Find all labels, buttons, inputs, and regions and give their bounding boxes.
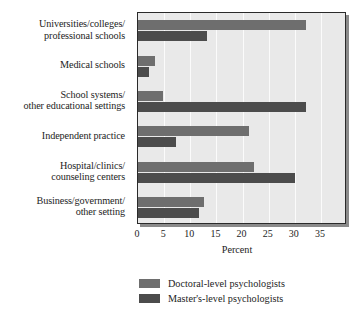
category-label-line: counseling centers	[0, 171, 125, 182]
x-tick-label: 35	[315, 228, 325, 239]
bar-chart: Universities/colleges/professional schoo…	[0, 0, 358, 322]
category-label: Business/government/other setting	[0, 195, 125, 218]
chart-legend: Doctoral-level psychologists Master's-le…	[139, 277, 354, 307]
category-label-line: Business/government/	[0, 195, 125, 206]
category-label-line: Medical schools	[0, 59, 125, 70]
bar	[138, 102, 306, 112]
x-axis-title: Percent	[137, 244, 337, 255]
legend-item-masters: Master's-level psychologists	[139, 292, 354, 305]
bar	[138, 162, 254, 172]
bar	[138, 56, 155, 66]
category-label-line: School systems/	[0, 89, 125, 100]
category-label-line: professional schools	[0, 30, 125, 41]
legend-label-masters: Master's-level psychologists	[168, 293, 283, 304]
x-axis-tick-labels: 05101520253035	[137, 228, 346, 242]
category-label-line: other setting	[0, 206, 125, 217]
bar	[138, 208, 199, 218]
bar	[138, 20, 306, 30]
x-tick-label: 25	[263, 228, 273, 239]
bar	[138, 67, 149, 77]
category-label: Universities/colleges/professional schoo…	[0, 18, 125, 41]
bar	[138, 31, 207, 41]
x-tick-label: 15	[210, 228, 220, 239]
category-label-line: Independent practice	[0, 130, 125, 141]
x-tick-label: 20	[237, 228, 247, 239]
legend-item-doctoral: Doctoral-level psychologists	[139, 277, 354, 290]
bar	[138, 173, 295, 183]
category-label: Hospital/clinics/counseling centers	[0, 160, 125, 183]
category-label-line: Hospital/clinics/	[0, 160, 125, 171]
doctoral-swatch-icon	[139, 279, 160, 288]
x-tick-label: 5	[161, 228, 166, 239]
masters-swatch-icon	[139, 294, 160, 303]
bar	[138, 197, 204, 207]
x-tick-label: 0	[135, 228, 140, 239]
category-label: Medical schools	[0, 59, 125, 70]
plot-area	[137, 12, 346, 224]
category-label-line: other educational settings	[0, 100, 125, 111]
x-tick-label: 30	[289, 228, 299, 239]
category-axis-labels: Universities/colleges/professional schoo…	[0, 12, 131, 224]
category-label: Independent practice	[0, 130, 125, 141]
bar	[138, 91, 163, 101]
category-label: School systems/other educational setting…	[0, 89, 125, 112]
category-label-line: Universities/colleges/	[0, 18, 125, 29]
x-tick-label: 10	[184, 228, 194, 239]
bar-series-container	[138, 13, 345, 223]
bar	[138, 137, 176, 147]
bar	[138, 126, 249, 136]
legend-label-doctoral: Doctoral-level psychologists	[168, 278, 285, 289]
